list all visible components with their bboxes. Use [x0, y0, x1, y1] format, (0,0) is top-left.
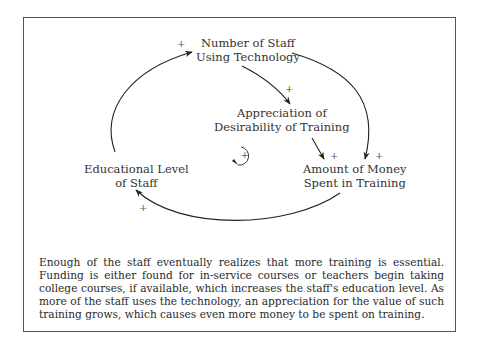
polarity-technology-money: + — [375, 151, 383, 161]
polarity-technology-appreciation: + — [285, 84, 293, 94]
node-money-spent-in-training: Amount of Money Spent in Training — [303, 162, 406, 190]
node-label-line2: Using Technology — [196, 50, 300, 64]
node-staff-using-technology: Number of Staff Using Technology — [196, 36, 300, 64]
node-appreciation-of-training: Appreciation of Desirability of Training — [214, 106, 350, 134]
loop-polarity-label: + — [241, 150, 249, 160]
node-label-line2: Spent in Training — [303, 176, 406, 190]
arrow-education-to-technology — [111, 52, 192, 152]
node-label-line1: Amount of Money — [303, 162, 406, 176]
arrow-money-to-education — [136, 190, 340, 220]
node-label-line2: Desirability of Training — [214, 120, 350, 134]
figure-caption: Enough of the staff eventually realizes … — [39, 256, 444, 321]
arrow-technology-to-appreciation — [242, 66, 290, 104]
node-educational-level: Educational Level of Staff — [84, 162, 189, 190]
node-label-line1: Educational Level — [84, 162, 189, 176]
polarity-education-technology: + — [177, 39, 185, 49]
arrow-appreciation-to-money — [312, 138, 324, 159]
node-label-line2: of Staff — [84, 176, 189, 190]
polarity-appreciation-money: + — [330, 151, 338, 161]
node-label-line1: Number of Staff — [196, 36, 300, 50]
node-label-line1: Appreciation of — [214, 106, 350, 120]
polarity-money-education: + — [139, 203, 147, 213]
